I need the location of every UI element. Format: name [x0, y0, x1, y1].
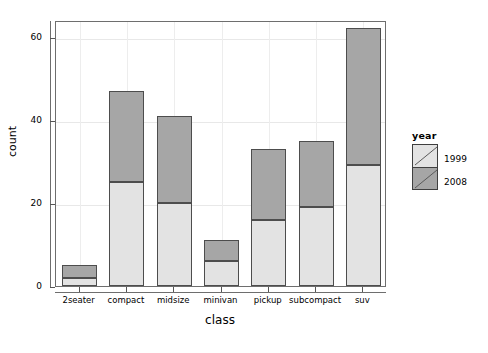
bar-2seater[interactable] [62, 20, 97, 286]
bar-suv[interactable] [346, 20, 381, 286]
y-tick-label: 40 [4, 115, 42, 125]
bar-segment-compact-1999[interactable] [109, 182, 144, 286]
bar-segment-subcompact-1999[interactable] [299, 207, 334, 286]
x-tick-mark [79, 287, 80, 292]
bar-chart: count class year 19992008 02040602seater… [0, 0, 488, 353]
legend-swatch-1999[interactable] [413, 145, 437, 167]
bar-segment-2seater-2008[interactable] [62, 265, 97, 277]
y-tick-label: 20 [4, 198, 42, 208]
bar-subcompact[interactable] [299, 20, 334, 286]
y-tick-label: 0 [4, 281, 42, 291]
bar-segment-compact-2008[interactable] [109, 91, 144, 182]
bar-midsize[interactable] [157, 20, 192, 286]
legend-swatch-2008[interactable] [413, 167, 437, 189]
x-tick-mark [173, 287, 174, 292]
bar-segment-suv-2008[interactable] [346, 28, 381, 165]
y-axis-line [50, 21, 51, 287]
bar-compact[interactable] [109, 20, 144, 286]
legend-label-2008: 2008 [444, 177, 467, 187]
bar-segment-midsize-2008[interactable] [157, 116, 192, 203]
y-tick-label: 60 [4, 32, 42, 42]
y-tick-mark [50, 121, 55, 122]
bar-segment-minivan-2008[interactable] [204, 240, 239, 261]
legend-label-1999: 1999 [444, 154, 467, 164]
legend-swatch-box [412, 144, 438, 190]
bar-segment-minivan-1999[interactable] [204, 261, 239, 286]
x-tick-mark [315, 287, 316, 292]
plot-panel [55, 21, 386, 287]
y-tick-mark [50, 287, 55, 288]
x-axis-line [55, 292, 386, 293]
x-tick-label-suv: suv [322, 295, 402, 305]
x-tick-mark [221, 287, 222, 292]
y-tick-mark [50, 38, 55, 39]
x-axis-label: class [0, 313, 440, 327]
x-tick-mark [126, 287, 127, 292]
bar-segment-pickup-1999[interactable] [251, 220, 286, 287]
bar-segment-pickup-2008[interactable] [251, 149, 286, 220]
bar-minivan[interactable] [204, 20, 239, 286]
bar-segment-suv-1999[interactable] [346, 165, 381, 286]
bar-pickup[interactable] [251, 20, 286, 286]
legend: year 19992008 [412, 130, 484, 190]
y-axis-label: count [6, 102, 19, 182]
bar-segment-2seater-1999[interactable] [62, 278, 97, 286]
bar-segment-subcompact-2008[interactable] [299, 141, 334, 208]
y-tick-mark [50, 204, 55, 205]
x-tick-mark [362, 287, 363, 292]
legend-title: year [412, 130, 484, 141]
bar-segment-midsize-1999[interactable] [157, 203, 192, 286]
x-tick-mark [268, 287, 269, 292]
